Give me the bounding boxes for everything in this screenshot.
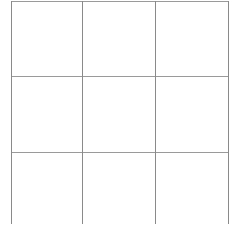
grid-line-vertical-2 <box>155 1 156 224</box>
grid-line-horizontal-1 <box>11 76 229 77</box>
grid-line-right <box>228 1 229 224</box>
three-by-three-grid <box>0 0 242 225</box>
grid-line-left <box>11 1 12 224</box>
grid-line-vertical-1 <box>82 1 83 224</box>
grid-line-top <box>11 1 229 2</box>
grid-line-horizontal-2 <box>11 152 229 153</box>
